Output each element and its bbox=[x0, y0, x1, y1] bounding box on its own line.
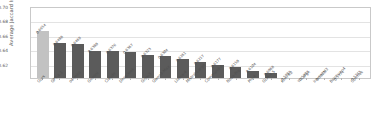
y-axis-tick-label: 0.66 bbox=[0, 33, 8, 38]
x-axis-tick-mark bbox=[306, 78, 307, 81]
bar-cell: 0.5743 bbox=[350, 8, 368, 78]
x-axis-tick-mark bbox=[341, 78, 342, 81]
bar-value-label: 0.6488 bbox=[53, 35, 64, 46]
x-axis-tick: Command-A bbox=[209, 80, 227, 118]
x-axis-tick: Cosmos bbox=[350, 80, 368, 118]
y-axis-tick-label: 0.70 bbox=[0, 5, 8, 10]
x-axis-tick-mark bbox=[271, 78, 272, 81]
bar-cell: 0.6380 bbox=[87, 8, 105, 78]
x-axis-tick-mark bbox=[130, 78, 131, 81]
x-axis-tick: Claude bbox=[104, 80, 122, 118]
bar-value-label: 0.6380 bbox=[88, 43, 99, 54]
x-axis-tick: GPT-4.1 bbox=[51, 80, 69, 118]
y-axis-tick-label: 0.68 bbox=[0, 19, 8, 24]
x-axis-tick: Baichuan4 bbox=[333, 80, 351, 118]
bar-value-label: 0.6304 bbox=[158, 49, 169, 60]
x-axis-tick-mark bbox=[359, 78, 360, 81]
x-axis-tick: InternLM3 bbox=[315, 80, 333, 118]
x-axis-tick: Llama-4 bbox=[174, 80, 192, 118]
bar-cell: 0.5897 bbox=[297, 8, 315, 78]
x-axis-tick: GLM-4.5 bbox=[262, 80, 280, 118]
bar-cell: 0.6261 bbox=[174, 8, 192, 78]
x-axis-tick-mark bbox=[218, 78, 219, 81]
bar-value-label: 0.6261 bbox=[176, 52, 187, 63]
x-axis-tick: Grok-3 bbox=[139, 80, 157, 118]
bar-cell: 0.6068 bbox=[262, 8, 280, 78]
bar-chart: Average Jaccard Index 0.700.680.660.640.… bbox=[0, 0, 380, 118]
x-axis-tick: o4-mini bbox=[68, 80, 86, 118]
y-axis-tick-label: 0.64 bbox=[0, 48, 8, 53]
bar-cell: 0.5982 bbox=[279, 8, 297, 78]
bar-value-label: 0.6104 bbox=[246, 63, 257, 74]
x-axis-tick: Nova-Pro bbox=[227, 80, 245, 118]
bar-value-label: 0.6367 bbox=[123, 44, 134, 55]
x-axis-tick-mark bbox=[59, 78, 60, 81]
bar-cell: 0.6469 bbox=[69, 8, 87, 78]
x-axis-tick: Ours bbox=[33, 80, 51, 118]
x-axis-tick-mark bbox=[324, 78, 325, 81]
x-axis-tick: Phi-4 bbox=[245, 80, 263, 118]
x-axis-tick-mark bbox=[200, 78, 201, 81]
y-axis-tick-label: 0.62 bbox=[0, 62, 8, 67]
x-axis-tick: Qwen3-Max bbox=[156, 80, 174, 118]
bar-cell: 0.6376 bbox=[104, 8, 122, 78]
bar[interactable]: 0.6654 bbox=[37, 31, 49, 78]
bar-value-label: 0.6469 bbox=[71, 37, 82, 48]
x-axis-tick: Mistral-Large bbox=[192, 80, 210, 118]
bar-value-label: 0.6376 bbox=[106, 43, 117, 54]
bar-cell: 0.6104 bbox=[244, 8, 262, 78]
x-axis-tick: Yi-Large bbox=[297, 80, 315, 118]
bar-cell: 0.6150 bbox=[227, 8, 245, 78]
x-axis-tick: Gemini bbox=[86, 80, 104, 118]
bar-value-label: 0.6323 bbox=[141, 47, 152, 58]
bar-value-label: 0.6654 bbox=[36, 23, 47, 34]
x-axis-tick-mark bbox=[236, 78, 237, 81]
bar-cell: 0.6323 bbox=[139, 8, 157, 78]
x-axis-tick-labels: OursGPT-4.1o4-miniGeminiClaudeDeepSeekGr… bbox=[30, 80, 371, 118]
bar-cell: 0.6654 bbox=[34, 8, 52, 78]
y-axis-title: Average Jaccard Index bbox=[8, 0, 14, 52]
bar-cell: 0.6488 bbox=[52, 8, 70, 78]
x-axis-tick: DeepSeek bbox=[121, 80, 139, 118]
x-axis-tick: Kimi-K2 bbox=[280, 80, 298, 118]
x-axis-tick-mark bbox=[165, 78, 166, 81]
